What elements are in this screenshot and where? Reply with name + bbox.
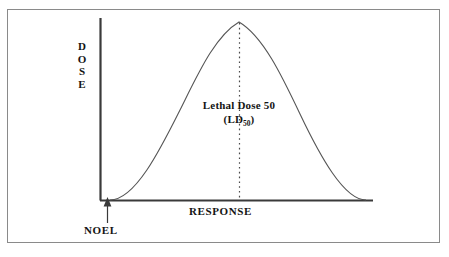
y-axis-letter-o: O xyxy=(74,53,90,66)
ld50-subscript: 50 xyxy=(243,119,251,128)
ld50-annotation: Lethal Dose 50 (LD50) xyxy=(163,99,315,130)
y-axis-letter-d: D xyxy=(74,40,90,53)
noel-label: NOEL xyxy=(84,224,118,236)
ld50-annotation-line2: (LD50) xyxy=(163,113,315,131)
noel-arrow-head xyxy=(104,197,112,207)
y-axis-label: D O S E xyxy=(74,40,90,90)
ld50-suffix: ) xyxy=(251,113,255,125)
ld50-prefix: (LD xyxy=(224,113,244,125)
y-axis-letter-e: E xyxy=(74,78,90,91)
y-axis-letter-s: S xyxy=(74,65,90,78)
dose-response-figure: D O S E RESPONSE Lethal Dose 50 (LD50) N… xyxy=(0,0,449,257)
x-axis-label: RESPONSE xyxy=(189,205,252,217)
ld50-annotation-line1: Lethal Dose 50 xyxy=(163,99,315,113)
